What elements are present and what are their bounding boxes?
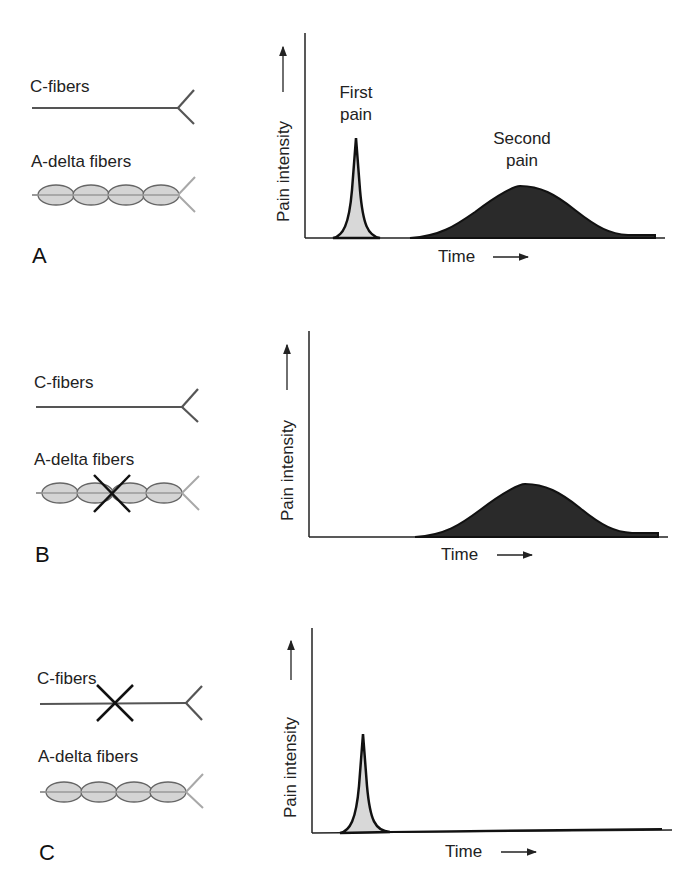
panel-b-letter: B — [35, 542, 50, 568]
panel-c-a-delta-label: A-delta fibers — [38, 747, 138, 767]
second-pain-hump — [410, 186, 655, 238]
panel-b-x-axis-label: Time — [441, 545, 478, 565]
panel-b-a-delta-fiber — [36, 476, 199, 510]
panel-a-a-delta-fiber — [32, 177, 195, 212]
panel-c-letter: C — [39, 840, 55, 866]
first-pain-peak — [340, 734, 390, 833]
panel-c-c-fiber — [40, 686, 202, 720]
first-pain-peak — [333, 138, 380, 238]
panel-a-c-fiber-label: C-fibers — [30, 77, 90, 97]
panel-b-y-axis-label: Pain intensity — [278, 420, 298, 521]
panel-a-x-axis-label: Time — [438, 247, 475, 267]
panel-b-a-delta-label: A-delta fibers — [34, 450, 134, 470]
panel-c-x-axis-label: Time — [445, 842, 482, 862]
panel-c-y-axis-label: Pain intensity — [281, 717, 301, 818]
panel-b-chart — [287, 331, 668, 555]
panel-b-c-fiber-label: C-fibers — [34, 373, 94, 393]
panel-c-chart — [291, 628, 672, 852]
panel-a-letter: A — [32, 243, 47, 269]
panel-c-c-fiber-label: C-fibers — [37, 669, 97, 689]
panel-b-c-fiber — [36, 389, 198, 422]
second-pain-hump — [415, 484, 658, 537]
second-pain-annotation: Second pain — [482, 128, 562, 172]
panel-a-y-axis-label: Pain intensity — [274, 121, 294, 222]
first-pain-annotation: First pain — [325, 82, 387, 126]
panel-a-a-delta-label: A-delta fibers — [31, 152, 131, 172]
panel-c-a-delta-fiber — [40, 774, 203, 808]
panel-a-chart — [283, 33, 665, 257]
